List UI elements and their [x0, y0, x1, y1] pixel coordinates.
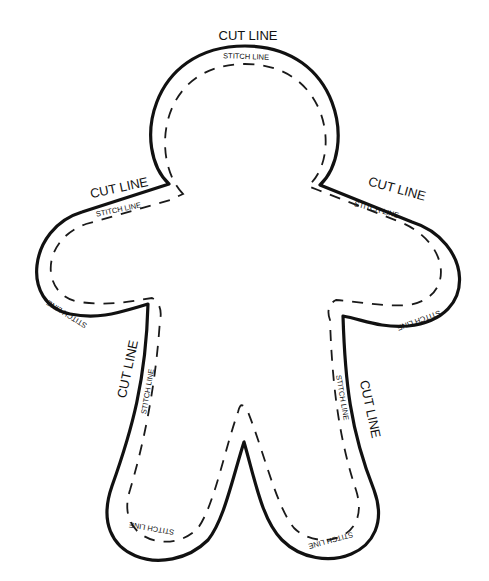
stitch-line-outline — [51, 64, 441, 542]
cut-line-label-head: CUT LINE — [219, 28, 278, 43]
cut-line-label-left-leg: CUT LINE — [114, 338, 141, 399]
cut-line-label-right-leg: CUT LINE — [357, 379, 384, 440]
stitch-line-label-right-arm-top: STITCH LINE — [353, 199, 400, 220]
cut-line-label-right-arm: CUT LINE — [367, 174, 428, 204]
stitch-line-label-left-foot: STITCH LINE — [128, 520, 175, 537]
gingerbread-pattern: CUT LINE CUT LINE CUT LINE CUT LINE CUT … — [0, 0, 489, 581]
stitch-line-label-right-arm-bottom: STITCH LINE — [396, 308, 442, 332]
cut-line-label-left-arm: CUT LINE — [89, 174, 150, 201]
stitch-line-label-left-arm-top: STITCH LINE — [95, 200, 142, 218]
stitch-line-label-right-foot: STITCH LINE — [307, 530, 354, 551]
cut-line-outline — [37, 46, 460, 560]
stitch-line-label-head: STITCH LINE — [223, 51, 269, 62]
